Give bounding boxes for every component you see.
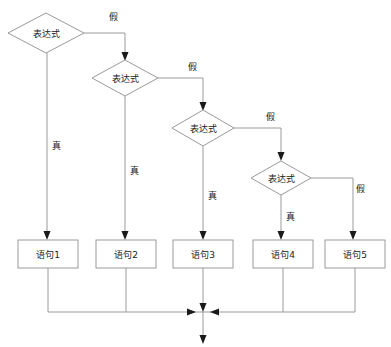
edge-label-false-2: 假 bbox=[188, 62, 197, 72]
decision-4-label: 表达式 bbox=[268, 173, 295, 184]
edge-label-true-2: 真 bbox=[130, 165, 139, 176]
decision-node-2[interactable]: 表达式 bbox=[92, 60, 158, 96]
edge-d3-true-arrowhead bbox=[200, 231, 207, 240]
exit-arrowhead bbox=[200, 335, 207, 344]
decision-node-3[interactable]: 表达式 bbox=[172, 110, 234, 146]
statement-node-5[interactable]: 语句5 bbox=[325, 240, 385, 268]
flowchart-canvas: 表达式 表达式 表达式 表达式 语句1 语句2 语句3 bbox=[0, 0, 391, 347]
statement-1-label: 语句1 bbox=[36, 249, 60, 260]
decision-node-1[interactable]: 表达式 bbox=[8, 13, 84, 53]
edge-label-false-1: 假 bbox=[109, 12, 118, 22]
statement-node-4[interactable]: 语句4 bbox=[253, 240, 313, 268]
edge-label-true-3: 真 bbox=[208, 190, 217, 201]
edge-label-true-1: 真 bbox=[52, 140, 61, 151]
merge-junction-arrowhead-down bbox=[200, 303, 207, 312]
edge-label-false-3: 假 bbox=[266, 112, 275, 122]
merge-junction-arrowhead-left bbox=[187, 309, 196, 316]
decision-2-label: 表达式 bbox=[112, 73, 139, 84]
statement-node-2[interactable]: 语句2 bbox=[96, 240, 156, 268]
edge-label-true-4: 真 bbox=[286, 211, 295, 222]
edge-d1-false-path bbox=[84, 33, 125, 54]
decision-1-label: 表达式 bbox=[33, 28, 60, 39]
statement-4-label: 语句4 bbox=[271, 249, 295, 260]
edge-d4-false-path bbox=[311, 178, 353, 233]
statement-3-label: 语句3 bbox=[191, 249, 215, 260]
flowchart-svg: 表达式 表达式 表达式 表达式 语句1 语句2 语句3 bbox=[0, 0, 391, 347]
merge-junction-arrowhead-right bbox=[210, 309, 219, 316]
edge-d2-true-arrowhead bbox=[122, 231, 129, 240]
statement-2-label: 语句2 bbox=[114, 249, 138, 260]
edge-d3-false-path bbox=[234, 128, 281, 154]
decision-3-label: 表达式 bbox=[190, 123, 217, 134]
decision-node-4[interactable]: 表达式 bbox=[251, 161, 311, 195]
edge-d3-false-arrowhead bbox=[278, 152, 285, 161]
edge-d2-false-path bbox=[158, 78, 203, 104]
edge-d1-true-arrowhead bbox=[44, 231, 51, 240]
edge-d4-false-arrowhead bbox=[350, 231, 357, 240]
statement-node-3[interactable]: 语句3 bbox=[173, 240, 233, 268]
statement-node-1[interactable]: 语句1 bbox=[18, 240, 78, 268]
statement-5-label: 语句5 bbox=[343, 249, 367, 260]
edge-label-false-4: 假 bbox=[356, 184, 365, 194]
edge-d4-true-arrowhead bbox=[278, 231, 285, 240]
